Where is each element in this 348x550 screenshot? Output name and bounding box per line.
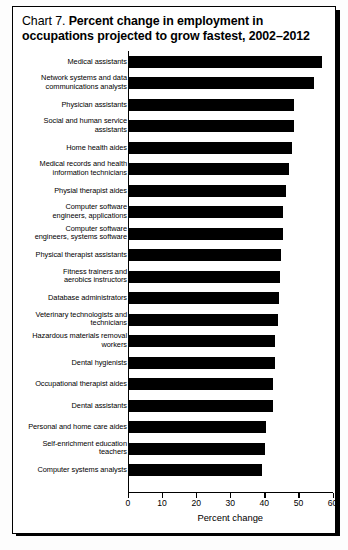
bar-row: Medical assistants [13, 51, 335, 73]
chart-frame: Chart 7. Percent change in employment in… [12, 6, 336, 534]
bar-track [128, 77, 332, 89]
bar-category-label: Computer software engineers, application… [21, 204, 127, 221]
bar-track [128, 464, 332, 476]
bar [128, 443, 265, 455]
bar-category-label: Medical records and health information t… [21, 161, 127, 178]
bar-category-label: Physician assistants [21, 100, 127, 109]
x-tick [196, 493, 197, 498]
bar [128, 185, 286, 197]
x-axis-tick-labels: 0102030405060 [128, 498, 333, 510]
bar-row: Physician assistants [13, 94, 335, 116]
bar-row: Computer systems analysts [13, 460, 335, 482]
bar-row: Network systems and data communications … [13, 73, 335, 95]
bar-row: Database administrators [13, 288, 335, 310]
chart-title: Chart 7. Percent change in employment in… [22, 14, 328, 44]
x-tick-label: 0 [126, 498, 131, 508]
bar-track [128, 443, 332, 455]
bar-category-label: Occupational therapist aides [21, 380, 127, 389]
x-tick [264, 493, 265, 498]
bar-category-label: Self-enrichment education teachers [21, 440, 127, 457]
bar [128, 56, 322, 68]
bar [128, 378, 273, 390]
bar-category-label: Computer software engineers, systems sof… [21, 225, 127, 242]
bar [128, 400, 273, 412]
x-tick-label: 50 [294, 498, 304, 508]
bar [128, 77, 314, 89]
bar [128, 314, 278, 326]
x-tick-label: 40 [260, 498, 270, 508]
x-tick-label: 20 [191, 498, 201, 508]
x-tick [162, 493, 163, 498]
bar-category-label: Personal and home care aides [21, 423, 127, 432]
bar [128, 206, 283, 218]
x-tick-label: 60 [328, 498, 338, 508]
x-tick-label: 30 [225, 498, 235, 508]
bar-category-label: Physical therapist assistants [21, 251, 127, 260]
bar-row: Personal and home care aides [13, 417, 335, 439]
bar-track [128, 335, 332, 347]
bar-track [128, 99, 332, 111]
bar-row: Dental hygienists [13, 352, 335, 374]
x-tick-label: 10 [157, 498, 167, 508]
plot-area: Medical assistantsNetwork systems and da… [13, 51, 335, 503]
bar-track [128, 421, 332, 433]
bar [128, 99, 294, 111]
x-axis-title: Percent change [128, 512, 333, 523]
bar-category-label: Network systems and data communications … [21, 75, 127, 92]
bar-track [128, 249, 332, 261]
bar-track [128, 314, 332, 326]
x-tick [298, 493, 299, 498]
bar [128, 228, 283, 240]
bar-row: Social and human service assistants [13, 116, 335, 138]
bar-category-label: Dental hygienists [21, 358, 127, 367]
bar-row: Self-enrichment education teachers [13, 438, 335, 460]
bar-category-label: Fitness trainers and aerobics instructor… [21, 268, 127, 285]
bar [128, 142, 292, 154]
bar-row: Computer software engineers, systems sof… [13, 223, 335, 245]
x-tick [128, 493, 129, 498]
bar-row: Physical therapist assistants [13, 245, 335, 267]
bar-track [128, 120, 332, 132]
bar-row: Hazardous materials removal workers [13, 331, 335, 353]
bar-track [128, 142, 332, 154]
bar-row: Home health aides [13, 137, 335, 159]
chart-title-prefix: Chart 7. [22, 14, 65, 28]
bar-category-label: Physial therapist aides [21, 186, 127, 195]
bar-category-label: Home health aides [21, 143, 127, 152]
bar-row: Physial therapist aides [13, 180, 335, 202]
bar-track [128, 185, 332, 197]
bar-category-label: Hazardous materials removal workers [21, 333, 127, 350]
chart-title-line2: occupations projected to grow fastest, 2… [22, 29, 328, 44]
bar-row: Medical records and health information t… [13, 159, 335, 181]
bar [128, 271, 280, 283]
bar-track [128, 400, 332, 412]
bar-category-label: Medical assistants [21, 57, 127, 66]
bar [128, 292, 279, 304]
bar-category-label: Veterinary technologists and technicians [21, 311, 127, 328]
bar-row: Fitness trainers and aerobics instructor… [13, 266, 335, 288]
bar-category-label: Social and human service assistants [21, 118, 127, 135]
bar-track [128, 56, 332, 68]
frame-shadow-right [336, 10, 340, 536]
bar [128, 120, 294, 132]
bar [128, 335, 275, 347]
bar-category-label: Computer systems analysts [21, 466, 127, 475]
x-tick [333, 493, 334, 498]
bar-track [128, 228, 332, 240]
bar [128, 249, 281, 261]
bar [128, 421, 266, 433]
chart-page: Chart 7. Percent change in employment in… [0, 0, 348, 550]
bar-rows: Medical assistantsNetwork systems and da… [13, 51, 335, 481]
x-tick [230, 493, 231, 498]
bar-track [128, 292, 332, 304]
bar-row: Occupational therapist aides [13, 374, 335, 396]
bar-track [128, 163, 332, 175]
bar-row: Computer software engineers, application… [13, 202, 335, 224]
bar-track [128, 271, 332, 283]
bar-track [128, 378, 332, 390]
chart-title-line1: Percent change in employment in [69, 14, 264, 28]
bar-track [128, 206, 332, 218]
bar-category-label: Database administrators [21, 294, 127, 303]
bar [128, 163, 289, 175]
bar-row: Dental assistants [13, 395, 335, 417]
